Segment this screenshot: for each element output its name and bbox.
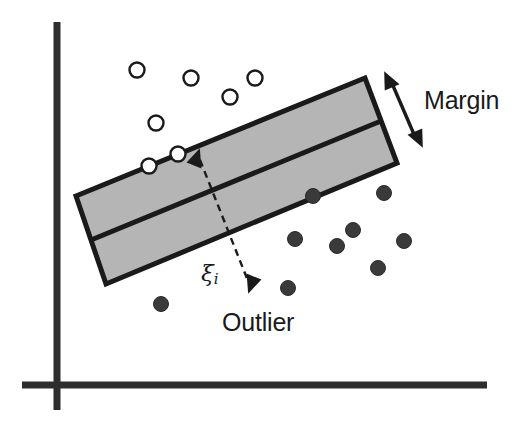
margin-label: Margin [424,88,499,113]
margin-arrowhead-up-icon [378,68,400,91]
data-point-open [149,116,164,131]
support-vector-open [142,159,157,174]
data-point-filled [371,261,386,276]
data-point-filled [154,297,169,312]
data-point-filled [281,281,296,296]
data-point-open [130,63,145,78]
figure-canvas [0,0,528,434]
data-point-open [223,90,238,105]
svm-margin-figure: Margin Outlier ξi [0,0,528,434]
slack-arrowhead-down-icon [240,274,262,297]
data-point-filled [330,239,345,254]
data-point-open [248,71,263,86]
support-vector-open [171,147,186,162]
data-point-filled [397,234,412,249]
data-point-filled [288,232,303,247]
margin-arrowhead-down-icon [408,129,430,152]
support-vector-filled [306,189,321,204]
xi-glyph: ξ [201,260,214,286]
margin-arrow-shaft [391,81,416,139]
slack-variable-label: ξi [201,262,218,287]
xi-subscript: i [214,270,219,288]
outlier-label: Outlier [222,310,294,335]
data-point-filled [377,186,392,201]
data-point-filled [346,223,361,238]
data-point-open [184,71,199,86]
